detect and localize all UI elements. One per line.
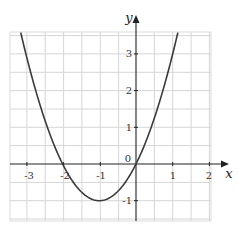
parabola-curve-smooth: [21, 33, 178, 201]
curve-overlay: [0, 0, 238, 228]
